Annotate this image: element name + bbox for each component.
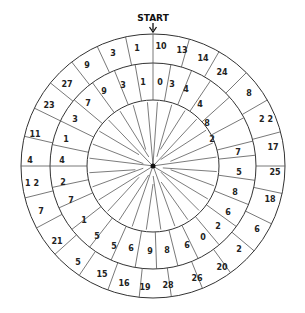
outer-cell-value: 9: [84, 61, 90, 70]
outer-sector-divider: [226, 73, 247, 94]
middle-cell-value: 4: [197, 100, 203, 109]
middle-cell-value: 7: [68, 196, 74, 205]
outer-cell-value: 1: [134, 44, 140, 53]
middle-sector-divider: [52, 180, 88, 188]
spoke-line: [154, 157, 216, 166]
middle-sector-divider: [169, 230, 178, 266]
middle-sector-divider: [59, 193, 93, 208]
spoke-line: [146, 184, 153, 230]
outer-sector-divider: [36, 214, 62, 228]
outer-sector-divider: [254, 187, 282, 193]
middle-cell-value: 8: [164, 246, 170, 255]
outer-cell-value: 7: [38, 207, 44, 216]
middle-cell-value: 3: [72, 115, 78, 124]
outer-cell-value: 16: [118, 279, 130, 288]
down-arrow-icon: [150, 23, 157, 32]
spoke-line: [133, 105, 145, 149]
outer-sector-divider: [252, 132, 280, 140]
outer-cell-value: 11: [29, 130, 41, 139]
middle-cell-value: 9: [147, 247, 153, 256]
spiral-dial-puzzle: 1013142482 21725186220262819161552171 24…: [0, 0, 305, 313]
middle-cell-value: 8: [232, 188, 238, 197]
middle-cell-value: 6: [184, 241, 190, 250]
outer-cell-value: 23: [43, 101, 54, 110]
outer-cell-value: 18: [264, 195, 276, 204]
outer-cell-value: 13: [176, 46, 187, 55]
outer-sector-divider: [108, 263, 118, 290]
middle-cell-value: 6: [225, 208, 231, 217]
spoke-line: [89, 170, 135, 173]
spoke-line: [153, 102, 157, 165]
middle-cell-value: 0: [157, 78, 163, 87]
outer-cell-value: 10: [155, 42, 167, 51]
outer-cell-value: 14: [197, 54, 209, 63]
middle-cell-value: 3: [169, 80, 175, 89]
center-spokes: [89, 102, 216, 229]
spoke-line: [160, 111, 185, 150]
outer-cell-value: 27: [61, 80, 72, 89]
spoke-line: [157, 105, 172, 157]
start-label: START: [137, 13, 169, 23]
outer-cell-value: 8: [246, 89, 252, 98]
middle-sector-divider: [52, 145, 88, 153]
middle-cell-value: 2: [209, 135, 215, 144]
spoke-line: [132, 167, 152, 227]
outer-cell-value: 2 2: [259, 115, 273, 124]
middle-cell-value: 7: [235, 148, 241, 157]
outer-cell-value: 6: [254, 225, 260, 234]
middle-cell-value: 9: [101, 87, 107, 96]
outer-cell-value: 2: [236, 245, 242, 254]
middle-sector-divider: [90, 218, 113, 247]
outer-cell-value: 5: [75, 258, 81, 267]
middle-cell-value: 4: [59, 156, 65, 165]
outer-sector-divider: [25, 191, 53, 198]
center-hub: [151, 164, 156, 169]
outer-sector-divider: [242, 100, 267, 115]
outer-cell-value: 4: [27, 156, 33, 165]
outer-cell-value: 20: [216, 263, 228, 272]
dial-diagram: 1013142482 21725186220262819161552171 24…: [0, 0, 305, 313]
middle-sector-divider: [155, 232, 156, 269]
middle-cell-value: 2: [60, 178, 66, 187]
outer-cell-value: 19: [139, 283, 151, 292]
outer-sector-divider: [246, 211, 272, 224]
outer-cell-value: 28: [162, 281, 174, 290]
outer-cell-value: 3: [110, 49, 116, 58]
middle-cell-value: 8: [204, 119, 210, 128]
middle-cell-value: 5: [111, 242, 117, 251]
spoke-line: [119, 175, 149, 220]
outer-cell-value: 15: [96, 270, 108, 279]
outer-cell-value: 21: [51, 237, 63, 246]
outer-cell-value: 1 2: [25, 179, 39, 188]
spoke-line: [99, 131, 139, 155]
outer-sector-divider: [97, 46, 109, 72]
outer-sector-divider: [34, 108, 60, 121]
middle-cell-value: 2: [215, 222, 221, 231]
middle-cell-value: 3: [120, 81, 126, 90]
spoke-line: [120, 111, 149, 157]
middle-cell-value: 1: [81, 216, 87, 225]
spoke-line: [161, 130, 206, 159]
middle-sector-divider: [135, 231, 141, 267]
start-marker: START: [137, 13, 169, 32]
middle-cell-value: 6: [128, 244, 134, 253]
middle-sector-divider: [211, 118, 244, 135]
middle-cell-value: 0: [200, 233, 206, 242]
middle-cell-value: 1: [140, 78, 146, 87]
middle-cell-value: 1: [63, 135, 69, 144]
spoke-line: [93, 144, 143, 163]
outer-cell-value: 17: [267, 143, 278, 152]
outer-sector-divider: [126, 37, 132, 65]
spoke-line: [108, 177, 139, 211]
middle-cell-value: 5: [236, 168, 242, 177]
spoke-line: [171, 170, 214, 186]
middle-cell-value: 5: [94, 232, 100, 241]
middle-cell-value: 4: [183, 85, 189, 94]
middle-sector-divider: [206, 205, 236, 227]
spoke-line: [161, 182, 188, 220]
outer-sector-divider: [79, 251, 95, 275]
middle-cell-value: 7: [85, 99, 91, 108]
outer-cell-value: 26: [191, 274, 203, 283]
spoke-line: [89, 158, 152, 166]
outer-cell-value: 24: [216, 68, 228, 77]
